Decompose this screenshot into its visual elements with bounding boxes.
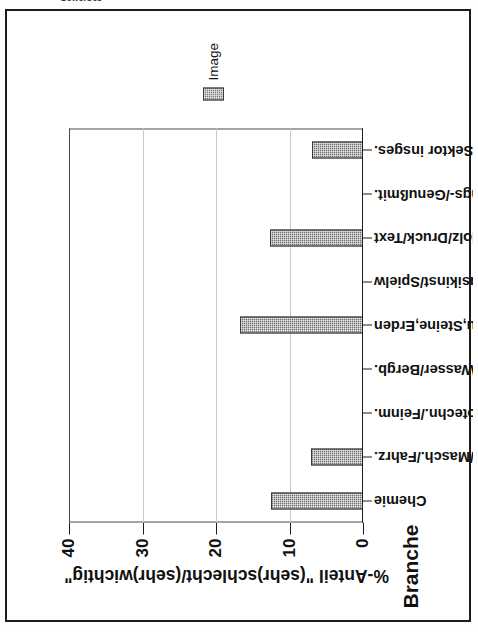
category-tick-slot [363,128,372,172]
value-tick-label-30: 30 [133,538,153,557]
category-tick-slot [363,347,372,391]
category-label-6: Vbrg/Holz/Druck/Text [374,229,473,245]
category-label-slot: Nahrungs-/Genußmit. [372,172,472,216]
category-label-slot: Vbrg/Holz/Druck/Text [372,216,472,260]
category-label-2: Elektrotechn./Feinm. [374,405,473,421]
category-tick-mark-0 [363,500,372,501]
bar-slot [69,128,363,172]
rotated-chart-wrapper: %-Anteil "(sehr)schlecht/(sehr)wichtig" … [7,11,473,620]
bar-slot [69,216,363,260]
category-label-4: Bau,Steine,Erden [374,317,473,333]
bar-slot [69,347,363,391]
value-tick-label-0: 0 [353,538,373,547]
category-tick-slot [363,259,372,303]
category-axis-labels: ChemieMetall/Masch./Fahrz.Elektrotechn./… [372,128,472,522]
value-tick-mark-10 [290,522,291,534]
chart-stage: %-Anteil "(sehr)schlecht/(sehr)wichtig" … [7,11,473,620]
category-label-8: 2. Sektor insges. [374,142,473,158]
bar-4[interactable] [240,316,363,333]
category-label-slot: Energ./Wasser/Bergb. [372,347,472,391]
category-label-slot: EBM/Musikinst/Spielw [372,259,472,303]
category-tick-mark-8 [363,149,372,150]
category-label-7: Nahrungs-/Genußmit. [374,186,473,202]
bar-slot [69,259,363,303]
category-tick-slot [363,391,372,435]
category-tick-mark-4 [363,324,372,325]
category-label-slot: Chemie [372,478,472,522]
category-label-1: Metall/Masch./Fahrz. [374,448,473,464]
legend-label-image: Image [206,42,221,80]
category-tick-mark-3 [363,368,372,369]
bar-0[interactable] [271,492,363,509]
category-tick-mark-2 [363,412,372,413]
bar-slot [69,478,363,522]
value-tick-label-40: 40 [59,538,79,557]
category-tick-slot [363,478,372,522]
category-label-slot: Elektrotechn./Feinm. [372,391,472,435]
category-label-slot: 2. Sektor insges. [372,128,472,172]
category-label-slot: Bau,Steine,Erden [372,303,472,347]
scanned-page: Gewerbes %-Anteil "(sehr)schlecht/(sehr)… [0,0,478,632]
category-tick-mark-7 [363,193,372,194]
bar-8[interactable] [312,141,363,158]
caption-fragment-text: Gewerbes [60,0,102,3]
legend: Image [203,42,224,100]
category-axis-title: Branche [399,524,423,608]
value-axis-labels: 0 10 20 30 40 [69,522,363,620]
value-tick-mark-40 [69,522,70,534]
plot-area [69,128,363,522]
bar-slot [69,172,363,216]
bar-group [69,128,363,522]
bar-slot [69,434,363,478]
category-label-0: Chemie [374,492,426,508]
category-tick-marks [363,128,372,522]
value-tick-label-10: 10 [280,538,300,557]
figure-frame: %-Anteil "(sehr)schlecht/(sehr)wichtig" … [5,9,471,622]
category-tick-mark-5 [363,281,372,282]
value-tick-label-20: 20 [206,538,226,557]
bar-slot [69,391,363,435]
bar-slot [69,303,363,347]
bar-6[interactable] [270,229,363,246]
category-tick-mark-6 [363,237,372,238]
category-label-3: Energ./Wasser/Bergb. [374,361,473,377]
category-label-5: EBM/Musikinst/Spielw [374,273,473,289]
value-tick-mark-20 [216,522,217,534]
category-tick-slot [363,434,372,478]
category-tick-slot [363,303,372,347]
value-tick-mark-30 [143,522,144,534]
category-tick-slot [363,172,372,216]
category-tick-slot [363,216,372,260]
category-label-slot: Metall/Masch./Fahrz. [372,434,472,478]
category-tick-mark-1 [363,456,372,457]
bar-1[interactable] [311,448,363,465]
value-tick-mark-0 [363,522,364,534]
legend-swatch-image [203,87,224,100]
